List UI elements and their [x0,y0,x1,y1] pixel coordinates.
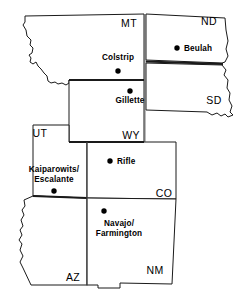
state-abbr-SD: SD [206,94,221,106]
site-label-beulah: Beulah [184,44,212,53]
state-abbr-ND: ND [201,15,217,27]
map-figure: MT ND SD WY UT CO AZ NM Colstrip Beulah … [0,0,249,300]
state-abbr-WY: WY [122,129,140,141]
site-dot-navajo-farmington[interactable] [101,208,106,213]
site-label-navajo-farmington-line1: Navajo/ [104,219,135,228]
site-label-kaiparowits-escalante-line2: Escalante [34,175,74,184]
site-label-navajo-farmington-line2: Farmington [96,229,143,238]
site-label-colstrip: Colstrip [102,53,134,62]
state-abbr-UT: UT [33,127,48,139]
state-abbr-NM: NM [146,264,163,276]
state-abbr-CO: CO [156,187,173,199]
state-abbr-MT: MT [121,17,137,29]
site-dot-rifle[interactable] [107,158,112,163]
site-label-gillette: Gillette [116,96,145,105]
state-abbr-AZ: AZ [66,271,80,283]
site-dot-kaiparowits-escalante[interactable] [51,188,56,193]
site-label-kaiparowits-escalante-line1: Kaiparowits/ [29,165,80,174]
site-label-rifle: Rifle [117,157,136,166]
state-shape-SD [146,63,233,117]
map-svg: MT ND SD WY UT CO AZ NM Colstrip Beulah … [0,0,249,300]
site-dot-gillette[interactable] [127,88,132,93]
site-dot-colstrip[interactable] [115,68,120,73]
site-dot-beulah[interactable] [174,45,179,50]
